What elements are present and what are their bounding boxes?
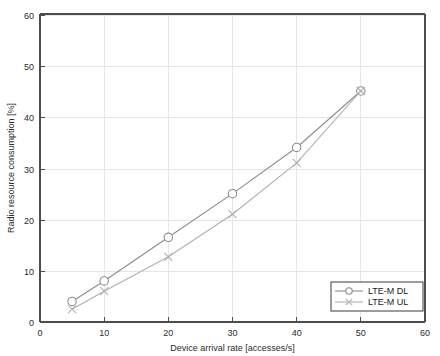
data-point-marker-circle <box>228 189 236 197</box>
x-tick-label: 30 <box>227 328 237 338</box>
y-axis-label: Radio resource consumption [%] <box>6 103 16 233</box>
x-tick-label: 40 <box>292 328 302 338</box>
data-point-marker-circle <box>292 143 300 151</box>
y-tick-label: 0 <box>29 318 34 328</box>
x-tick-label: 50 <box>356 328 366 338</box>
line-chart-svg: 0 10 20 30 40 50 60 0 10 20 30 40 50 60 … <box>0 0 440 356</box>
x-tick-label: 60 <box>420 328 430 338</box>
x-tick-label: 10 <box>99 328 109 338</box>
y-tick-label: 30 <box>24 165 34 175</box>
legend-label-ul: LTE-M UL <box>368 297 408 307</box>
x-tick-labels: 0 10 20 30 40 50 60 <box>37 328 430 338</box>
chart-figure: 0 10 20 30 40 50 60 0 10 20 30 40 50 60 … <box>0 0 440 356</box>
x-tick-label: 0 <box>37 328 42 338</box>
x-tick-label: 20 <box>163 328 173 338</box>
y-tick-labels: 0 10 20 30 40 50 60 <box>24 11 34 328</box>
y-tick-label: 50 <box>24 62 34 72</box>
y-tick-label: 10 <box>24 267 34 277</box>
data-point-marker-circle <box>164 233 172 241</box>
y-tick-label: 60 <box>24 11 34 21</box>
chart-legend[interactable]: LTE-M DL LTE-M UL <box>331 282 423 311</box>
circle-marker-icon <box>346 288 352 294</box>
data-point-marker-circle <box>68 297 76 305</box>
data-point-marker-circle <box>100 277 108 285</box>
x-axis-label: Device arrival rate [accesses/s] <box>170 343 295 353</box>
y-tick-label: 20 <box>24 216 34 226</box>
legend-label-dl: LTE-M DL <box>368 286 408 296</box>
y-tick-label: 40 <box>24 113 34 123</box>
